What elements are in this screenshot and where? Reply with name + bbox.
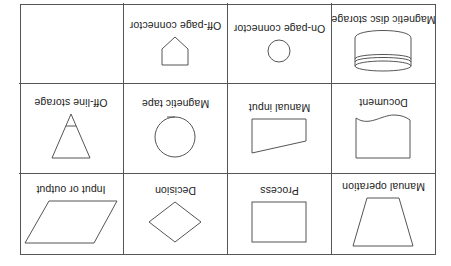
symbol-label: Document <box>359 98 408 110</box>
cell-on-page-connector: On-page connector <box>227 3 331 83</box>
symbol-label: Process <box>260 185 299 197</box>
manual-input-icon <box>252 119 308 155</box>
cell-manual-operation: Manual operation <box>331 173 435 254</box>
rectangle-icon <box>252 201 308 243</box>
symbol-label: Magnetic disc storage <box>331 14 435 26</box>
cell-document: Document <box>331 83 435 173</box>
symbol-label: Off-line storage <box>34 98 107 110</box>
cell-process: Process <box>227 173 331 254</box>
cell-input-output: Input or output <box>19 173 123 254</box>
pentagon-icon <box>162 36 190 66</box>
symbol-label: Off-page connector <box>130 20 222 32</box>
symbol-label: Magnetic tape <box>142 99 209 111</box>
cell-manual-input: Manual input <box>227 83 331 173</box>
document-icon <box>356 114 412 160</box>
circle-tape-icon <box>154 115 198 159</box>
parallelogram-icon <box>24 200 118 244</box>
cell-magnetic-disc-storage: Magnetic disc storage <box>331 3 435 83</box>
symbol-label: Manual input <box>249 103 310 115</box>
cell-magnetic-tape: Magnetic tape <box>123 83 227 173</box>
cell-off-page-connector: Off-page connector <box>123 3 227 83</box>
cell-empty <box>19 3 123 83</box>
trapezoid-icon <box>353 197 415 247</box>
cell-decision: Decision <box>123 173 227 254</box>
triangle-storage-icon <box>51 114 91 160</box>
cell-off-line-storage: Off-line storage <box>19 83 123 173</box>
symbol-label: Input or output <box>36 184 105 196</box>
small-circle-icon <box>268 39 292 63</box>
cylinder-icon <box>355 30 413 72</box>
symbol-label: On-page connector <box>234 23 326 35</box>
diamond-icon <box>149 201 203 243</box>
symbol-label: Decision <box>155 185 196 197</box>
symbol-label: Manual operation <box>342 181 425 193</box>
flowchart-symbols-table: Manual operation Process Decision Input … <box>20 4 436 255</box>
